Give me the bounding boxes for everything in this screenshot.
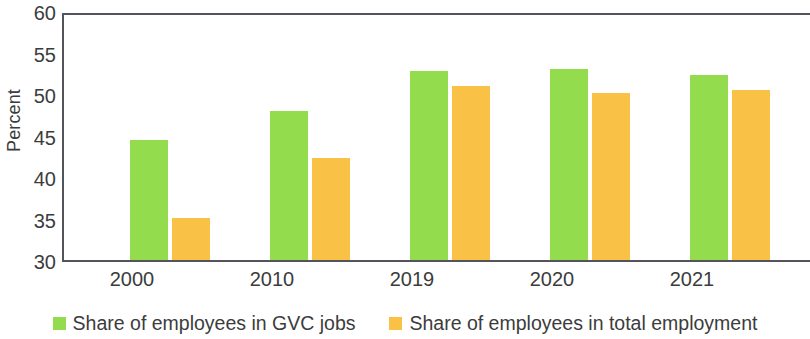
y-tick-label: 45 — [4, 128, 56, 148]
bar-2020-series-1[interactable] — [550, 69, 588, 260]
y-tick-label: 35 — [4, 211, 56, 231]
legend-label: Share of employees in GVC jobs — [73, 312, 356, 335]
y-tick-label: 40 — [4, 169, 56, 189]
bar-2021-series-1[interactable] — [690, 75, 728, 260]
bar-group — [344, 15, 484, 260]
y-tick-label: 50 — [4, 86, 56, 106]
bar-chart-figure: Percent 30354045505560 20002010201920202… — [0, 0, 810, 339]
y-tick-label: 30 — [4, 252, 56, 272]
bar-group — [204, 15, 344, 260]
bar-groups — [64, 15, 810, 260]
bar-2021-series-2[interactable] — [732, 90, 770, 260]
x-tick-label: 2019 — [342, 268, 482, 291]
chart-legend: Share of employees in GVC jobsShare of e… — [0, 308, 810, 339]
x-tick-label: 2020 — [482, 268, 622, 291]
legend-item-2[interactable]: Share of employees in total employment — [389, 312, 757, 335]
y-axis-tick-labels: 30354045505560 — [0, 0, 56, 339]
legend-label: Share of employees in total employment — [409, 312, 757, 335]
bar-2000-series-1[interactable] — [130, 140, 168, 260]
x-tick-label: 2021 — [622, 268, 762, 291]
bar-group — [624, 15, 764, 260]
legend-item-1[interactable]: Share of employees in GVC jobs — [53, 312, 356, 335]
y-tick-label: 60 — [4, 3, 56, 23]
legend-swatch-icon — [53, 317, 66, 330]
y-tick-label: 55 — [4, 45, 56, 65]
x-tick-label: 2000 — [62, 268, 202, 291]
plot-area — [62, 13, 810, 262]
bar-2019-series-1[interactable] — [410, 71, 448, 260]
x-axis-tick-labels: 20002010201920202021 — [62, 268, 810, 298]
x-tick-label: 2010 — [202, 268, 342, 291]
bar-group — [64, 15, 204, 260]
bar-2010-series-1[interactable] — [270, 111, 308, 260]
bar-group — [484, 15, 624, 260]
legend-swatch-icon — [389, 317, 402, 330]
